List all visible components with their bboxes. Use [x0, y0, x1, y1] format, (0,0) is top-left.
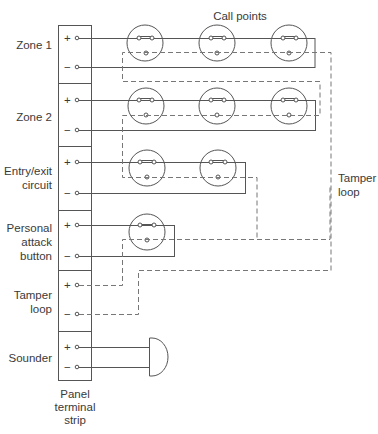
sounder	[150, 338, 169, 376]
call-point-z2-3	[271, 88, 307, 124]
zone-1-label: Zone 1	[0, 38, 52, 52]
tamper-plus: +	[64, 278, 71, 292]
entry-exit-label-1: Entry/exit	[0, 164, 52, 178]
call-point-z1-3	[271, 25, 307, 61]
zone-2-plus: +	[64, 93, 71, 107]
personal-attack-label-3: button	[0, 249, 52, 263]
sounder-plus: +	[64, 340, 71, 354]
ee-plus: +	[64, 155, 71, 169]
zone-2-minus: −	[64, 123, 71, 137]
tamper-terminal-label-2: loop	[0, 302, 52, 316]
call-point-z1-2	[199, 25, 235, 61]
personal-attack-label-2: attack	[0, 235, 52, 249]
sounder-label: Sounder	[0, 351, 52, 365]
call-point-z2-2	[199, 88, 235, 124]
panel-label-3: strip	[45, 413, 105, 427]
zone-2-label: Zone 2	[0, 110, 52, 124]
terminal-strip	[59, 26, 92, 381]
call-points-title: Call points	[200, 9, 280, 23]
ee-minus: −	[64, 186, 71, 200]
pa-minus: −	[64, 249, 71, 263]
tamper-loop	[79, 53, 331, 315]
call-point-ee-1	[129, 150, 165, 186]
contacts	[137, 36, 298, 242]
pa-plus: +	[64, 218, 71, 232]
terminal-posts	[75, 36, 79, 369]
call-point-pa	[129, 214, 165, 250]
call-point-ee-2	[200, 150, 236, 186]
tamper-minus: −	[64, 307, 71, 321]
sounder-minus: −	[64, 360, 71, 374]
tamper-terminal-label-1: Tamper	[0, 288, 52, 302]
wiring-diagram	[0, 0, 378, 434]
panel-label-2: terminal	[45, 400, 105, 414]
tamper-loop-label-1: Tamper	[338, 171, 376, 185]
personal-attack-label-1: Personal	[0, 221, 52, 235]
panel-label-1: Panel	[45, 387, 105, 401]
zone-1-plus: +	[64, 31, 71, 45]
entry-exit-label-2: circuit	[0, 178, 52, 192]
call-point-z2-1	[128, 88, 164, 124]
tamper-loop-label-2: loop	[338, 185, 360, 199]
call-point-z1-1	[127, 25, 163, 61]
zone-1-minus: −	[64, 60, 71, 74]
